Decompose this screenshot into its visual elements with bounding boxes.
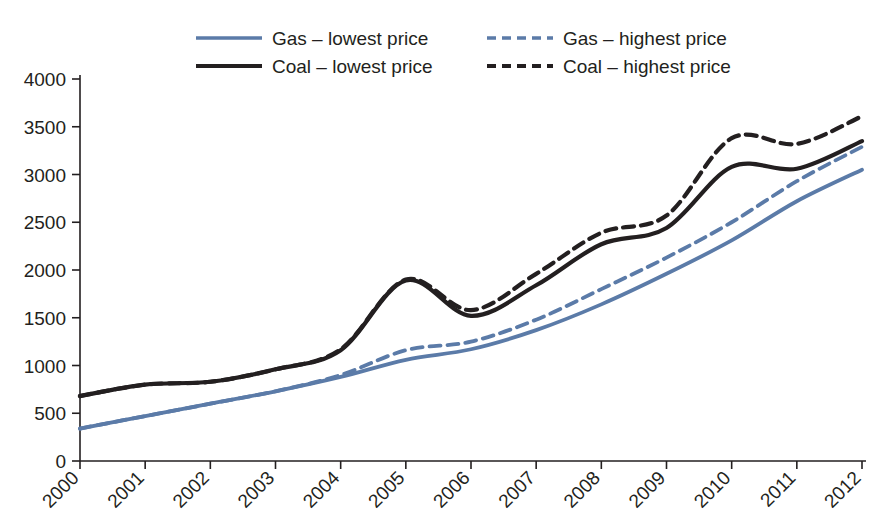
line-chart: Gas – lowest priceGas – highest priceCoa… (0, 0, 887, 532)
x-axis-tick-label: 2001 (103, 467, 148, 512)
legend-item: Gas – highest price (487, 28, 727, 49)
y-axis-tick-label: 2500 (24, 212, 66, 233)
x-axis-tick-label: 2003 (234, 467, 279, 512)
chart-container: Gas – lowest priceGas – highest priceCoa… (0, 0, 887, 532)
legend-label: Coal – lowest price (272, 56, 433, 77)
x-axis-tick-label: 2012 (820, 467, 865, 512)
series-line-gas_highest (80, 147, 862, 429)
y-axis-tick-label: 1500 (24, 308, 66, 329)
y-axis-tick-label: 0 (55, 451, 66, 472)
chart-series (80, 116, 862, 428)
legend-item: Coal – lowest price (196, 56, 433, 77)
x-axis-tick-label: 2010 (690, 467, 735, 512)
x-axis-tick-label: 2006 (429, 467, 474, 512)
chart-legend: Gas – lowest priceGas – highest priceCoa… (196, 28, 731, 77)
legend-label: Coal – highest price (563, 56, 731, 77)
y-axis-tick-label: 3500 (24, 117, 66, 138)
y-axis-tick-label: 4000 (24, 69, 66, 90)
legend-label: Gas – lowest price (272, 28, 428, 49)
x-axis-tick-label: 2004 (299, 467, 344, 512)
series-line-coal_highest (80, 116, 862, 396)
x-axis-tick-label: 2009 (625, 467, 670, 512)
legend-item: Coal – highest price (487, 56, 731, 77)
y-axis-tick-label: 2000 (24, 260, 66, 281)
x-axis-tick-label: 2007 (494, 467, 539, 512)
series-line-coal_lowest (80, 141, 862, 396)
y-axis-tick-label: 500 (34, 403, 66, 424)
x-axis-tick-label: 2008 (559, 467, 604, 512)
legend-item: Gas – lowest price (196, 28, 428, 49)
y-axis-tick-label: 3000 (24, 165, 66, 186)
x-axis-tick-labels: 2000200120022003200420052006200720082009… (38, 467, 865, 512)
x-axis-tick-label: 2000 (38, 467, 83, 512)
y-axis-tick-labels: 05001000150020002500300035004000 (24, 69, 66, 472)
x-axis-tick-label: 2002 (168, 467, 213, 512)
y-axis-tick-label: 1000 (24, 356, 66, 377)
x-axis-tick-label: 2011 (756, 467, 800, 511)
x-axis-tick-label: 2005 (364, 467, 409, 512)
series-line-gas_lowest (80, 170, 862, 429)
legend-label: Gas – highest price (563, 28, 727, 49)
